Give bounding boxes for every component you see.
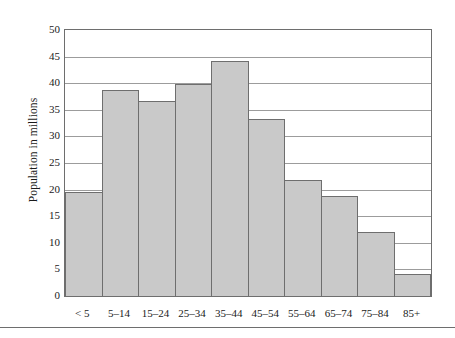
y-axis-tick-label: 45 xyxy=(36,51,60,62)
y-axis-tick-label: 25 xyxy=(36,157,60,168)
bar xyxy=(175,84,213,296)
y-axis-tick-labels: 05101520253035404550 xyxy=(36,22,60,302)
x-axis-tick-label: 55–64 xyxy=(284,303,321,323)
y-axis-tick-label: 15 xyxy=(36,210,60,221)
x-axis-tick-label: 15–24 xyxy=(137,303,174,323)
bar xyxy=(211,61,249,296)
x-axis-tick-label: < 5 xyxy=(64,303,101,323)
bar-series xyxy=(65,30,431,296)
x-axis-tick-label: 25–34 xyxy=(174,303,211,323)
x-axis-tick-label: 45–54 xyxy=(247,303,284,323)
footer-rule xyxy=(0,327,455,328)
bar xyxy=(284,180,322,296)
bar xyxy=(65,192,103,296)
y-axis-tick-label: 35 xyxy=(36,104,60,115)
y-axis-tick-label: 5 xyxy=(36,263,60,274)
histogram-figure: Population in millions 05101520253035404… xyxy=(0,0,455,338)
bar xyxy=(394,274,432,296)
bar xyxy=(357,232,395,296)
x-axis-tick-label: 35–44 xyxy=(210,303,247,323)
plot-area xyxy=(64,29,432,297)
bar xyxy=(102,90,140,296)
y-axis-tick-label: 50 xyxy=(36,24,60,35)
y-axis-tick-label: 40 xyxy=(36,77,60,88)
x-axis-tick-labels: < 55–1415–2425–3435–4445–5455–6465–7475–… xyxy=(64,303,430,323)
x-axis-tick-label: 5–14 xyxy=(101,303,138,323)
y-axis-tick-label: 0 xyxy=(36,290,60,301)
x-axis-tick-label: 75–84 xyxy=(357,303,394,323)
x-axis-tick-label: 65–74 xyxy=(320,303,357,323)
bar xyxy=(248,119,286,296)
bar xyxy=(138,101,176,296)
bar xyxy=(321,196,359,296)
y-axis-tick-label: 10 xyxy=(36,237,60,248)
y-axis-tick-label: 20 xyxy=(36,184,60,195)
x-axis-tick-label: 85+ xyxy=(393,303,430,323)
y-axis-tick-label: 30 xyxy=(36,130,60,141)
